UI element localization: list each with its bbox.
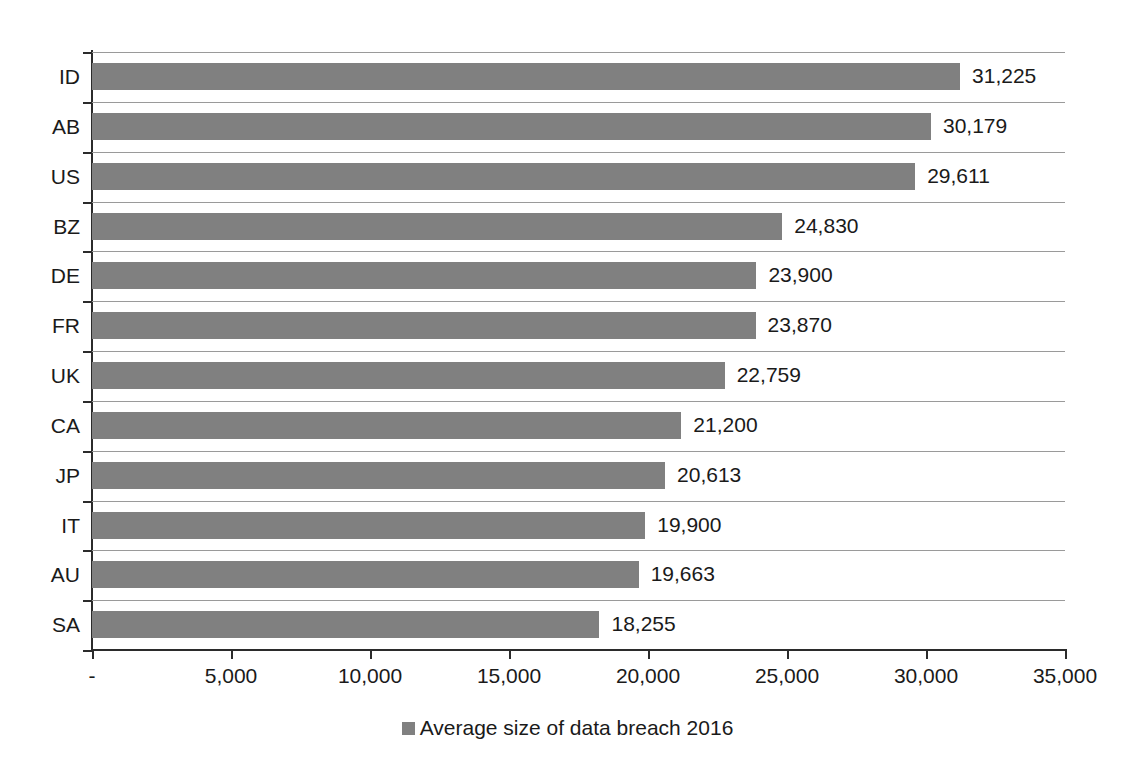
bar [92, 412, 681, 439]
y-axis-tick [83, 52, 92, 54]
bar-row: 18,255 [92, 600, 1065, 650]
bar-row: 19,900 [92, 501, 1065, 551]
x-axis-tick [92, 649, 94, 659]
bar-value-label: 23,870 [768, 311, 832, 339]
bar-row: 29,611 [92, 152, 1065, 202]
y-axis-tick [83, 301, 92, 303]
category-label-de: DE [51, 262, 80, 290]
bar [92, 611, 599, 638]
bar-row: 21,200 [92, 401, 1065, 451]
x-tick-label: 20,000 [616, 662, 680, 690]
x-tick-label: 5,000 [205, 662, 258, 690]
category-label-fr: FR [52, 312, 80, 340]
x-tick-label: 25,000 [755, 662, 819, 690]
category-label-us: US [51, 163, 80, 191]
y-axis-tick [83, 550, 92, 552]
x-axis-tick [1065, 649, 1067, 659]
bar-value-label: 20,613 [677, 461, 741, 489]
bar [92, 63, 960, 90]
bar-value-label: 22,759 [737, 361, 801, 389]
bar-row: 24,830 [92, 202, 1065, 252]
bar-value-label: 31,225 [972, 62, 1036, 90]
x-axis-tick [370, 649, 372, 659]
y-axis-tick [83, 650, 92, 652]
x-tick-label: 10,000 [338, 662, 402, 690]
y-axis-tick [83, 401, 92, 403]
y-axis-tick [83, 202, 92, 204]
y-axis-tick [83, 501, 92, 503]
legend-label: Average size of data breach 2016 [420, 715, 734, 741]
x-tick-label: 15,000 [477, 662, 541, 690]
legend-swatch-icon [402, 722, 415, 735]
bar-row: 23,900 [92, 251, 1065, 301]
bar-value-label: 21,200 [693, 411, 757, 439]
bar-value-label: 18,255 [611, 610, 675, 638]
bar [92, 262, 756, 289]
bar [92, 163, 915, 190]
y-axis-tick [83, 600, 92, 602]
bar [92, 312, 756, 339]
category-label-uk: UK [51, 362, 80, 390]
bar-row: 22,759 [92, 351, 1065, 401]
bar-chart: 31,22530,17929,61124,83023,90023,87022,7… [0, 0, 1135, 778]
bar-value-label: 19,900 [657, 511, 721, 539]
y-axis-tick [83, 251, 92, 253]
x-tick-label: 35,000 [1033, 662, 1097, 690]
category-label-it: IT [61, 512, 80, 540]
x-tick-label: - [89, 662, 96, 690]
bar-row: 31,225 [92, 52, 1065, 102]
x-axis-tick [509, 649, 511, 659]
category-label-bz: BZ [53, 213, 80, 241]
bar-value-label: 19,663 [651, 560, 715, 588]
category-label-ca: CA [51, 412, 80, 440]
bar-value-label: 23,900 [768, 261, 832, 289]
bar-value-label: 24,830 [794, 212, 858, 240]
bar [92, 362, 725, 389]
x-axis-tick [648, 649, 650, 659]
bar-series: 31,22530,17929,61124,83023,90023,87022,7… [92, 52, 1065, 650]
x-axis-tick [787, 649, 789, 659]
bar-row: 19,663 [92, 550, 1065, 600]
bar-value-label: 30,179 [943, 112, 1007, 140]
bar [92, 462, 665, 489]
y-axis-tick [83, 102, 92, 104]
bar [92, 113, 931, 140]
x-axis-tick [926, 649, 928, 659]
chart-legend: Average size of data breach 2016 [0, 715, 1135, 741]
bar [92, 213, 782, 240]
category-label-id: ID [59, 63, 80, 91]
bar-row: 23,870 [92, 301, 1065, 351]
x-axis-tick [231, 649, 233, 659]
category-label-ab: AB [52, 113, 80, 141]
category-label-sa: SA [52, 611, 80, 639]
category-label-au: AU [51, 561, 80, 589]
bar-row: 20,613 [92, 451, 1065, 501]
bar-row: 30,179 [92, 102, 1065, 152]
x-tick-label: 30,000 [894, 662, 958, 690]
y-axis-tick [83, 351, 92, 353]
y-axis-tick [83, 451, 92, 453]
category-label-jp: JP [55, 462, 80, 490]
bar [92, 561, 639, 588]
bar-value-label: 29,611 [927, 162, 990, 190]
y-axis-tick [83, 152, 92, 154]
bar [92, 512, 645, 539]
